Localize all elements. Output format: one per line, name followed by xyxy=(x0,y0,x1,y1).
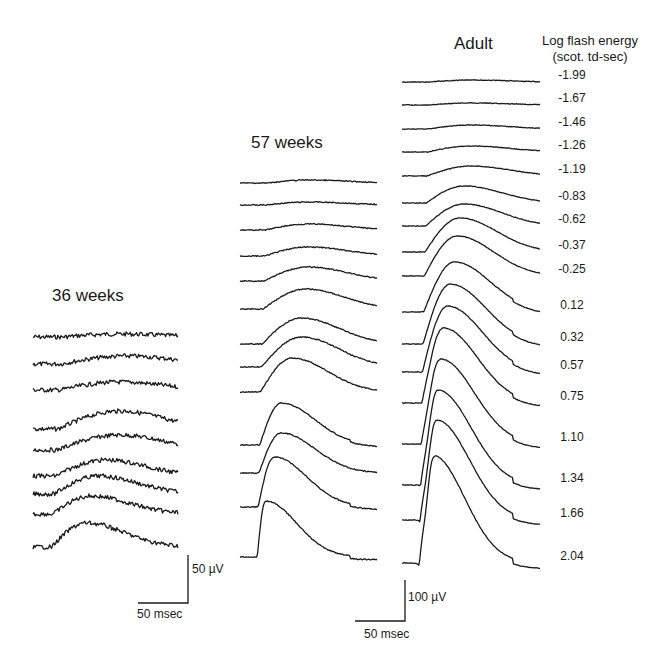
erg-trace xyxy=(33,521,178,549)
energy-label: 0.75 xyxy=(551,389,593,403)
energy-label: -1.99 xyxy=(551,68,593,82)
erg-trace xyxy=(402,359,540,448)
energy-label: -1.26 xyxy=(551,138,593,152)
scale-36-time-label: 50 msec xyxy=(137,607,182,621)
traces-57-weeks xyxy=(240,180,377,560)
scale-adult-voltage-label: 100 µV xyxy=(408,590,446,604)
erg-trace xyxy=(240,457,377,510)
traces-adult xyxy=(402,80,540,569)
energy-label: 2.04 xyxy=(551,549,593,563)
legend-title: Log flash energy (scot. td-sec) xyxy=(524,33,656,65)
energy-label: -1.19 xyxy=(551,162,593,176)
erg-trace xyxy=(240,247,377,257)
erg-trace xyxy=(240,337,377,368)
erg-trace xyxy=(33,409,178,431)
energy-label: 1.10 xyxy=(551,430,593,444)
erg-trace xyxy=(402,80,540,83)
erg-trace xyxy=(402,328,540,406)
traces-36-weeks xyxy=(33,332,178,549)
erg-trace xyxy=(240,202,377,206)
erg-trace xyxy=(402,306,540,374)
erg-trace xyxy=(402,262,540,312)
energy-label: -0.37 xyxy=(551,238,593,252)
legend-title-line1: Log flash energy xyxy=(524,33,656,49)
erg-trace xyxy=(240,318,377,345)
erg-trace xyxy=(240,403,377,447)
scale-bar-adult xyxy=(355,580,405,621)
erg-trace xyxy=(402,103,540,106)
erg-trace xyxy=(402,236,540,276)
energy-label: -0.25 xyxy=(551,262,593,276)
erg-trace xyxy=(402,218,540,252)
scale-36-voltage-label: 50 µV xyxy=(192,562,224,576)
erg-trace xyxy=(402,146,540,153)
energy-label: -0.83 xyxy=(551,189,593,203)
panel-title-adult: Adult xyxy=(454,34,493,54)
legend-title-line2: (scot. td-sec) xyxy=(524,49,656,65)
panel-title-36-weeks: 36 weeks xyxy=(52,286,124,306)
scale-bar-36-weeks xyxy=(138,555,188,603)
erg-trace xyxy=(240,501,377,560)
energy-label: -1.46 xyxy=(551,115,593,129)
erg-trace xyxy=(240,358,377,393)
erg-trace xyxy=(240,224,377,231)
panel-title-57-weeks: 57 weeks xyxy=(251,133,323,153)
energy-label: -1.67 xyxy=(551,91,593,105)
scale-adult-time-label: 50 msec xyxy=(364,627,409,641)
energy-label: 1.34 xyxy=(551,471,593,485)
erg-trace xyxy=(240,289,377,310)
energy-label: 0.12 xyxy=(551,298,593,312)
erg-trace xyxy=(33,380,178,392)
energy-label: 0.57 xyxy=(551,358,593,372)
energy-label: 0.32 xyxy=(551,330,593,344)
erg-trace xyxy=(402,186,540,204)
erg-trace xyxy=(33,494,178,516)
erg-trace xyxy=(240,433,377,474)
erg-trace xyxy=(33,354,178,366)
erg-trace xyxy=(402,125,540,130)
erg-trace xyxy=(402,166,540,177)
erg-trace xyxy=(33,433,178,452)
energy-label: 1.66 xyxy=(551,506,593,520)
erg-trace xyxy=(402,204,540,227)
erg-trace xyxy=(33,332,178,339)
erg-trace xyxy=(402,390,540,489)
erg-trace xyxy=(240,267,377,282)
erg-trace xyxy=(240,180,377,184)
erg-trace xyxy=(402,284,540,345)
energy-label: -0.62 xyxy=(551,212,593,226)
erg-figure: 36 weeks 57 weeks Adult Log flash energy… xyxy=(0,0,659,668)
